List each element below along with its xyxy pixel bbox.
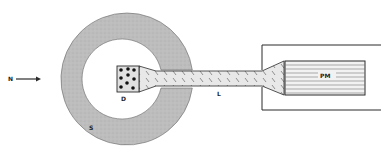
incident-arrow: N: [8, 75, 41, 82]
photomultiplier: PM: [285, 61, 365, 95]
pm-label: PM: [320, 72, 330, 79]
detector-label: D: [121, 95, 126, 102]
light-guide-label: L: [217, 90, 221, 97]
detector: [117, 66, 139, 92]
incident-label: N: [8, 75, 13, 82]
diagram-canvas: N S L D: [0, 0, 385, 153]
shield-label: S: [89, 124, 93, 131]
